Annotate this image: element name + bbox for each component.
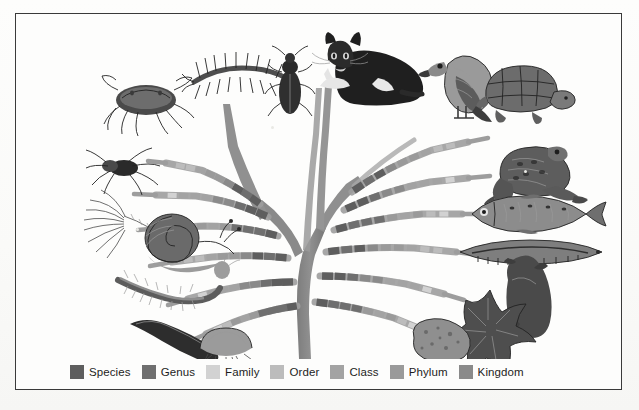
- legend-swatch-class: [330, 365, 344, 379]
- organism-spider: [86, 148, 160, 195]
- legend-item-genus[interactable]: Genus: [142, 365, 195, 379]
- legend-label-class: Class: [349, 366, 378, 378]
- legend-label-order: Order: [289, 366, 319, 378]
- legend-swatch-genus: [142, 365, 156, 379]
- organisms-svg: [16, 14, 621, 359]
- legend-swatch-species: [70, 365, 84, 379]
- organism-centipede: [182, 52, 286, 99]
- legend-item-species[interactable]: Species: [70, 365, 131, 379]
- organism-beetle: [265, 46, 315, 116]
- figure-root: Species Genus Family Order Class Phylum: [0, 0, 639, 410]
- legend-label-family: Family: [225, 366, 259, 378]
- legend-item-phylum[interactable]: Phylum: [390, 365, 448, 379]
- legend-label-species: Species: [89, 366, 131, 378]
- illustration-plate: Species Genus Family Order Class Phylum: [15, 13, 622, 390]
- organism-crab: [102, 76, 194, 137]
- legend-swatch-phylum: [390, 365, 404, 379]
- legend-item-kingdom[interactable]: Kingdom: [459, 365, 524, 379]
- organism-sponge: [413, 319, 470, 359]
- legend-label-genus: Genus: [161, 366, 195, 378]
- taxonomic-rank-legend: Species Genus Family Order Class Phylum: [16, 359, 621, 385]
- scan-speck: [136, 228, 139, 231]
- legend-swatch-kingdom: [459, 365, 473, 379]
- organism-bird: [418, 56, 492, 122]
- organism-cat: [312, 32, 423, 106]
- scan-speck: [271, 126, 274, 129]
- legend-label-phylum: Phylum: [409, 366, 448, 378]
- legend-swatch-order: [270, 365, 284, 379]
- legend-label-kingdom: Kingdom: [478, 366, 524, 378]
- legend-item-class[interactable]: Class: [330, 365, 378, 379]
- tree-canvas: [16, 14, 621, 359]
- legend-item-family[interactable]: Family: [206, 365, 259, 379]
- organism-tortoise: [476, 66, 575, 124]
- legend-swatch-family: [206, 365, 220, 379]
- scan-speck: [524, 170, 527, 173]
- legend-item-order[interactable]: Order: [270, 365, 319, 379]
